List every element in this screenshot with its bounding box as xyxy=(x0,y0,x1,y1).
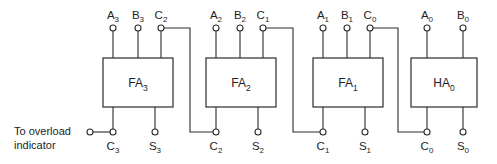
terminal-s3[interactable] xyxy=(152,129,158,135)
label-s2: S2 xyxy=(252,140,265,155)
label-a1: A1 xyxy=(317,9,330,24)
label-s3: S3 xyxy=(149,140,162,155)
label-c2-out: C2 xyxy=(210,140,223,155)
terminal-b2[interactable] xyxy=(237,25,243,31)
terminal-c0-in[interactable] xyxy=(367,25,373,31)
terminal-c1-in[interactable] xyxy=(260,25,266,31)
terminal-a0[interactable] xyxy=(424,25,430,31)
label-s1: S1 xyxy=(359,140,372,155)
block-fa2[interactable]: FA2 xyxy=(206,31,276,129)
circuit-canvas: FA3 FA2 FA1 HA0 xyxy=(0,0,497,164)
overload-terminal[interactable] xyxy=(87,129,93,135)
terminal-a3[interactable] xyxy=(110,25,116,31)
overload-note-line2: indicator xyxy=(14,139,56,151)
label-a2: A2 xyxy=(210,9,223,24)
label-s0: S0 xyxy=(457,140,470,155)
label-c3: C3 xyxy=(107,140,120,155)
overload-note-line1: To overload xyxy=(14,125,71,137)
terminal-c2-out[interactable] xyxy=(213,129,219,135)
terminal-c0-out[interactable] xyxy=(424,129,430,135)
terminal-s2[interactable] xyxy=(255,129,261,135)
terminal-s0[interactable] xyxy=(460,129,466,135)
label-b0: B0 xyxy=(457,9,470,24)
label-b3: B3 xyxy=(132,9,145,24)
label-c0-out: C0 xyxy=(421,140,434,155)
label-c2-in: C2 xyxy=(155,9,168,24)
terminal-b1[interactable] xyxy=(344,25,350,31)
terminal-c3[interactable] xyxy=(110,129,116,135)
label-b1: B1 xyxy=(341,9,354,24)
block-fa3[interactable]: FA3 xyxy=(103,31,173,129)
terminal-c1-out[interactable] xyxy=(320,129,326,135)
terminal-b3[interactable] xyxy=(135,25,141,31)
label-c0-in: C0 xyxy=(364,9,377,24)
terminal-a2[interactable] xyxy=(213,25,219,31)
label-a0: A0 xyxy=(421,9,434,24)
terminal-c2-in[interactable] xyxy=(158,25,164,31)
label-b2: B2 xyxy=(234,9,247,24)
label-a3: A3 xyxy=(107,9,120,24)
terminal-a1[interactable] xyxy=(320,25,326,31)
block-fa1[interactable]: FA1 xyxy=(313,31,383,129)
block-ha0[interactable]: HA0 xyxy=(411,31,477,129)
terminal-s1[interactable] xyxy=(362,129,368,135)
label-c1-in: C1 xyxy=(257,9,270,24)
terminal-b0[interactable] xyxy=(460,25,466,31)
ripple-carry-adder-diagram: FA3 FA2 FA1 HA0 xyxy=(0,0,497,164)
label-c1-out: C1 xyxy=(317,140,330,155)
